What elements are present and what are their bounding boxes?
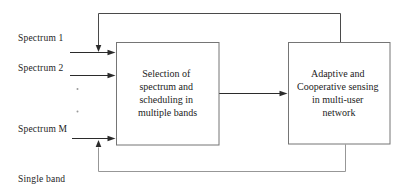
bottom-feedback-line <box>99 145 346 172</box>
spectrum-m-arrowhead-icon <box>108 136 116 142</box>
spectrum-1-label: Spectrum 1 <box>18 33 64 43</box>
spectrum-1-arrowhead-icon <box>108 50 116 56</box>
single-band-label: Single band <box>18 174 65 184</box>
vertical-ellipsis-icon <box>77 88 79 113</box>
spectrum-2-label: Spectrum 2 <box>18 63 64 73</box>
diagram-canvas: Selection of spectrum and scheduling in … <box>0 0 406 191</box>
spectrum-2-arrowhead-icon <box>108 73 116 79</box>
top-feedback-arrowhead-icon <box>96 45 102 52</box>
diagram-stage: Selection of spectrum and scheduling in … <box>0 0 406 191</box>
spectrum-m-label: Spectrum M <box>18 124 68 134</box>
top-feedback-line <box>99 14 341 46</box>
inter-box-arrowhead-icon <box>280 91 288 97</box>
bottom-feedback-arrowhead-icon <box>96 140 102 147</box>
